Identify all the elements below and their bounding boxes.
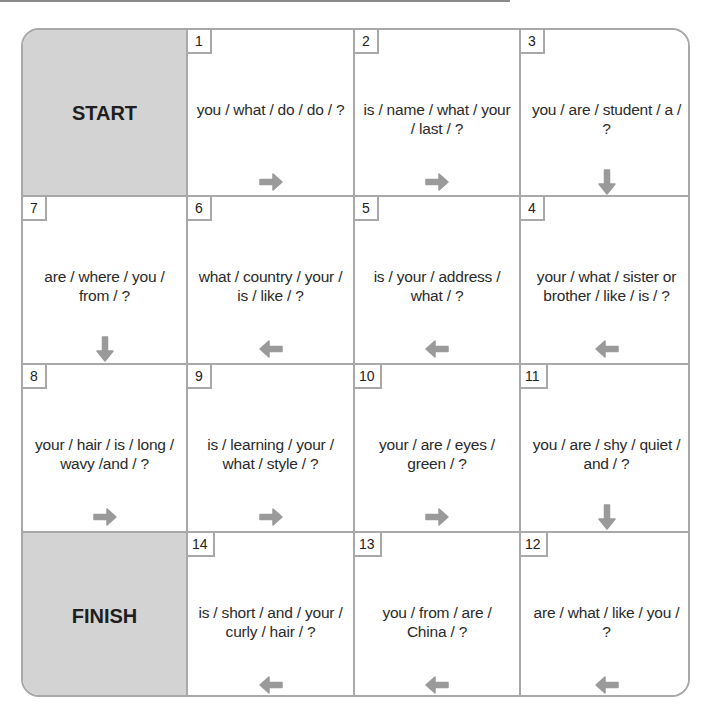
board-game-grid: START 1 you / what / do / do / ? 2 is / … bbox=[21, 28, 690, 697]
square-prompt: you / are / shy / quiet / and / ? bbox=[529, 435, 684, 473]
square-prompt: are / what / like / you / ? bbox=[529, 603, 684, 641]
square-number: 8 bbox=[23, 365, 47, 389]
arrow-left-icon bbox=[423, 335, 451, 363]
arrow-down-icon bbox=[593, 503, 621, 531]
arrow-right-icon bbox=[257, 168, 285, 196]
arrow-down-icon bbox=[593, 168, 621, 196]
arrow-left-icon bbox=[257, 671, 285, 697]
square-3: 3 you / are / student / a / ? bbox=[521, 30, 690, 197]
square-1: 1 you / what / do / do / ? bbox=[188, 30, 355, 197]
arrow-left-icon bbox=[257, 335, 285, 363]
square-number: 10 bbox=[355, 365, 382, 389]
arrow-right-icon bbox=[423, 168, 451, 196]
arrow-left-icon bbox=[423, 671, 451, 697]
square-number: 9 bbox=[188, 365, 212, 389]
square-11: 11 you / are / shy / quiet / and / ? bbox=[521, 365, 690, 533]
square-prompt: are / where / you / from / ? bbox=[31, 267, 178, 305]
square-number: 5 bbox=[355, 197, 379, 221]
finish-square: FINISH bbox=[23, 533, 188, 697]
arrow-right-icon bbox=[423, 503, 451, 531]
arrow-down-icon bbox=[91, 335, 119, 363]
square-number: 11 bbox=[521, 365, 548, 389]
square-prompt: your / what / sister or brother / like /… bbox=[529, 267, 684, 305]
square-number: 12 bbox=[521, 533, 548, 557]
square-number: 14 bbox=[188, 533, 215, 557]
square-12: 12 are / what / like / you / ? bbox=[521, 533, 690, 697]
square-number: 7 bbox=[23, 197, 47, 221]
square-prompt: your / hair / is / long / wavy /and / ? bbox=[31, 435, 178, 473]
square-prompt: you / are / student / a / ? bbox=[529, 100, 684, 138]
square-prompt: what / country / your / is / like / ? bbox=[196, 267, 345, 305]
square-9: 9 is / learning / your / what / style / … bbox=[188, 365, 355, 533]
arrow-right-icon bbox=[257, 503, 285, 531]
arrow-right-icon bbox=[91, 503, 119, 531]
start-label: START bbox=[23, 101, 186, 124]
arrow-left-icon bbox=[593, 335, 621, 363]
top-rule-divider bbox=[0, 0, 510, 2]
square-5: 5 is / your / address / what / ? bbox=[355, 197, 521, 365]
arrow-left-icon bbox=[593, 671, 621, 697]
square-8: 8 your / hair / is / long / wavy /and / … bbox=[23, 365, 188, 533]
square-prompt: you / what / do / do / ? bbox=[196, 100, 345, 119]
square-prompt: is / learning / your / what / style / ? bbox=[196, 435, 345, 473]
square-prompt: your / are / eyes / green / ? bbox=[363, 435, 511, 473]
square-10: 10 your / are / eyes / green / ? bbox=[355, 365, 521, 533]
square-number: 3 bbox=[521, 30, 545, 54]
square-number: 1 bbox=[188, 30, 212, 54]
square-number: 4 bbox=[521, 197, 545, 221]
square-6: 6 what / country / your / is / like / ? bbox=[188, 197, 355, 365]
square-13: 13 you / from / are / China / ? bbox=[355, 533, 521, 697]
finish-label: FINISH bbox=[23, 605, 186, 628]
square-prompt: is / your / address / what / ? bbox=[363, 267, 511, 305]
square-7: 7 are / where / you / from / ? bbox=[23, 197, 188, 365]
square-number: 13 bbox=[355, 533, 382, 557]
square-number: 6 bbox=[188, 197, 212, 221]
square-14: 14 is / short / and / your / curly / hai… bbox=[188, 533, 355, 697]
square-number: 2 bbox=[355, 30, 379, 54]
square-2: 2 is / name / what / your / last / ? bbox=[355, 30, 521, 197]
square-prompt: is / name / what / your / last / ? bbox=[363, 100, 511, 138]
square-4: 4 your / what / sister or brother / like… bbox=[521, 197, 690, 365]
square-prompt: you / from / are / China / ? bbox=[363, 603, 511, 641]
square-prompt: is / short / and / your / curly / hair /… bbox=[196, 603, 345, 641]
start-square: START bbox=[23, 30, 188, 197]
